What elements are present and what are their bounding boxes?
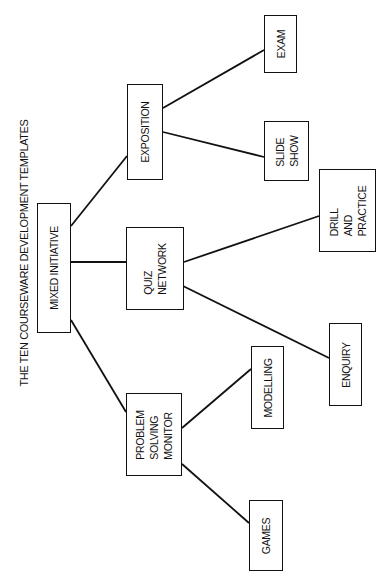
node-label: EXAM: [274, 30, 288, 59]
edge-exposition-to-slide_show: [163, 132, 264, 157]
edge-problem_solving_monitor-to-games: [182, 464, 249, 523]
edge-quiz_network-to-drill_and_practice: [184, 216, 319, 262]
edge-problem_solving_monitor-to-modelling: [182, 369, 251, 428]
node-mixed-initiative: MIXED INITIATIVE: [37, 203, 71, 333]
node-problem-solving-monitor: PROBLEM SOLVING MONITOR: [126, 393, 182, 476]
node-label: QUIZ NETWORK: [141, 243, 169, 295]
node-label: MIXED INITIATIVE: [47, 226, 61, 310]
node-label: ENQUIRY: [339, 342, 353, 388]
edge-mixed_initiative-to-problem_solving_monitor: [71, 320, 126, 412]
node-modelling: MODELLING: [251, 346, 284, 429]
node-drill-and-practice: DRILL AND PRACTICE: [319, 169, 376, 252]
node-exposition: EXPOSITION: [127, 84, 163, 180]
node-label: SLIDE SHOW: [273, 135, 301, 166]
edge-mixed_initiative-to-exposition: [71, 156, 127, 226]
node-label: MODELLING: [261, 358, 275, 417]
node-quiz-network: QUIZ NETWORK: [126, 227, 184, 310]
node-label: DRILL AND PRACTICE: [327, 185, 369, 236]
node-games: GAMES: [249, 500, 283, 571]
edge-exposition-to-exam: [163, 50, 264, 108]
diagram-canvas: THE TEN COURSEWARE DEVELOPMENT TEMPLATES…: [0, 0, 377, 586]
node-label: PROBLEM SOLVING MONITOR: [133, 410, 175, 459]
node-label: EXPOSITION: [138, 101, 152, 162]
node-exam: EXAM: [264, 15, 297, 73]
node-slide-show: SLIDE SHOW: [264, 121, 309, 181]
diagram-title: THE TEN COURSEWARE DEVELOPMENT TEMPLATES: [18, 120, 30, 387]
node-label: GAMES: [259, 517, 273, 553]
node-enquiry: ENQUIRY: [329, 323, 362, 406]
